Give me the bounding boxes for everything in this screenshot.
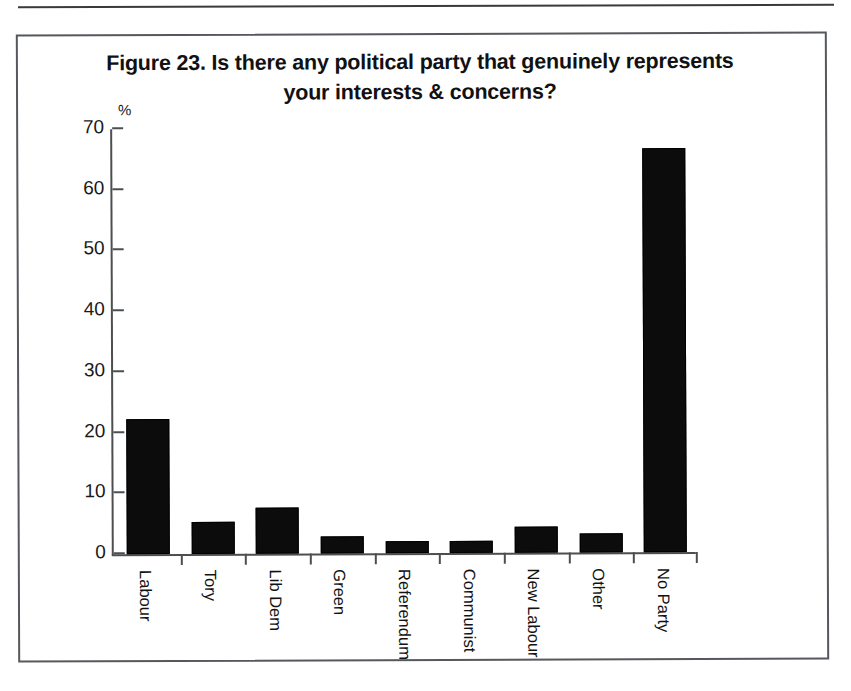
y-axis-tick-label: 10 (84, 481, 105, 503)
bar-lib-dem[interactable] (256, 507, 299, 553)
y-axis-tick-50: 50 (113, 249, 124, 251)
y-axis-tick-10: 10 (114, 491, 125, 493)
x-axis-label-referendum: Referendum (395, 569, 414, 660)
x-axis-tick (374, 553, 376, 564)
bar-series (110, 127, 692, 129)
chart-title: Figure 23. Is there any political party … (44, 46, 796, 109)
y-axis-tick-label: 20 (84, 420, 105, 442)
x-axis-labels: LabourToryLib DemGreenReferendumCommunis… (110, 127, 692, 129)
y-axis-tick-label: 50 (83, 238, 104, 260)
bar-communist[interactable] (450, 541, 493, 553)
chart-title-line-1: Figure 23. Is there any political party … (106, 49, 734, 75)
y-axis-tick-60: 60 (112, 188, 123, 190)
x-axis-label-other: Other (589, 568, 608, 609)
x-axis-tick-end (696, 552, 698, 563)
x-axis-tick (568, 552, 570, 563)
figure-content: Figure 23. Is there any political party … (16, 31, 829, 662)
bar-tory[interactable] (191, 522, 234, 554)
bar-labour[interactable] (126, 419, 170, 554)
x-axis-label-green: Green (330, 569, 349, 615)
bar-chart-plot-area: % 010203040506070 LabourToryLib DemGreen… (110, 127, 694, 554)
y-axis-unit-label: % (118, 101, 131, 118)
y-axis-tick-70: 70 (112, 127, 123, 129)
x-axis-tick (439, 553, 441, 564)
y-axis-tick-label: 30 (84, 359, 105, 381)
x-axis-ticks (110, 127, 692, 129)
y-axis-tick-label: 0 (95, 541, 106, 563)
x-axis-label-labour: Labour (136, 570, 155, 621)
x-axis-label-tory: Tory (201, 570, 220, 601)
y-axis-tick-label: 40 (84, 298, 105, 320)
x-axis-tick (180, 554, 182, 565)
y-axis-ticks: 010203040506070 (110, 127, 692, 129)
bar-green[interactable] (321, 536, 364, 553)
y-axis-tick-30: 30 (113, 370, 124, 372)
x-axis-tick (504, 553, 506, 564)
x-axis-tick (633, 552, 635, 563)
x-axis-tick (310, 553, 312, 564)
y-axis-tick-label: 60 (83, 177, 104, 199)
x-axis-label-no-party: No Party (654, 568, 673, 632)
y-axis-tick-0: 0 (114, 552, 125, 554)
bar-new-labour[interactable] (515, 526, 558, 552)
x-axis-tick (245, 554, 247, 565)
x-axis-label-lib-dem: Lib Dem (266, 570, 285, 632)
y-axis-tick-20: 20 (113, 431, 124, 433)
y-axis-tick-label: 70 (83, 116, 104, 138)
y-axis-tick-40: 40 (113, 309, 124, 311)
x-axis-label-communist: Communist (460, 569, 479, 653)
bar-referendum[interactable] (385, 541, 428, 553)
page-top-rule (18, 4, 834, 9)
bar-no-party[interactable] (642, 148, 687, 553)
x-axis-label-new-labour: New Labour (524, 569, 543, 658)
bar-other[interactable] (579, 533, 622, 553)
chart-title-line-2: your interests & concerns? (44, 76, 796, 109)
